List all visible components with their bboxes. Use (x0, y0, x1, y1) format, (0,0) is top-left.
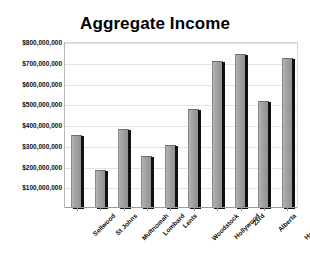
x-tick-label: Sellwood (91, 212, 117, 238)
chart-title: Aggregate Income (0, 14, 310, 34)
bar-shadow (268, 102, 271, 209)
bar-shadow (81, 136, 84, 209)
bar-group (141, 42, 152, 207)
bar-group (165, 42, 176, 207)
bar-group (282, 42, 293, 207)
bar-shadow (151, 157, 154, 209)
x-tick-label: St Johns (114, 212, 139, 237)
bar-shadow (175, 146, 178, 209)
x-tick-label: Alberta (276, 212, 298, 234)
x-tick-label: Hawthorne (303, 212, 310, 241)
bar-group (71, 42, 82, 207)
y-tick-label: $600,000,000 (22, 80, 62, 87)
plot-area (64, 42, 298, 208)
bar-chart: Aggregate Income $100,000,000$200,000,00… (0, 0, 310, 268)
x-axis: SellwoodSt JohnsMultnomahLombardLentsWoo… (64, 208, 298, 268)
bar-shadow (198, 110, 201, 209)
bar-group (118, 42, 129, 207)
y-tick-label: $100,000,000 (22, 184, 62, 191)
y-axis: $100,000,000$200,000,000$300,000,000$400… (0, 38, 64, 210)
bar-shadow (105, 171, 108, 209)
bar-group (235, 42, 246, 207)
y-tick-label: $400,000,000 (22, 122, 62, 129)
bar-group (188, 42, 199, 207)
bar-shadow (245, 55, 248, 209)
bar-group (258, 42, 269, 207)
y-tick-label: $200,000,000 (22, 163, 62, 170)
bar-shadow (222, 62, 225, 209)
bar-shadow (292, 59, 295, 209)
bars-layer (65, 43, 297, 208)
y-tick-label: $500,000,000 (22, 101, 62, 108)
y-tick-label: $800,000,000 (22, 39, 62, 46)
bar-shadow (128, 130, 131, 209)
y-tick-label: $700,000,000 (22, 59, 62, 66)
bar-group (212, 42, 223, 207)
bar-group (95, 42, 106, 207)
y-tick-label: $300,000,000 (22, 142, 62, 149)
